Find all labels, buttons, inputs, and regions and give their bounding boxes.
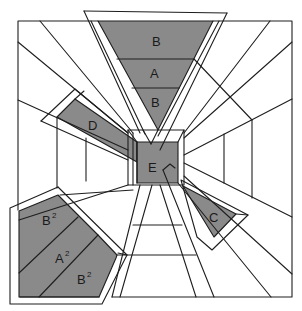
svg-text:2: 2 — [52, 211, 57, 220]
svg-text:2: 2 — [65, 249, 70, 258]
label-b2-upper: B — [42, 213, 51, 228]
label-d: D — [88, 118, 97, 133]
panel-bottom-left — [19, 195, 117, 297]
label-b2-lower: B — [77, 272, 86, 287]
label-top-b2: B — [151, 95, 160, 110]
label-e: E — [148, 160, 157, 175]
label-c: C — [209, 210, 218, 225]
diagram-canvas: B A B D E C B 2 A 2 B 2 — [0, 0, 302, 311]
panel-e — [137, 142, 178, 183]
label-a2: A — [55, 251, 64, 266]
label-top-b1: B — [152, 34, 161, 49]
perspective-diagram: B A B D E C B 2 A 2 B 2 — [0, 0, 302, 311]
top-frame — [84, 11, 227, 13]
svg-text:2: 2 — [87, 270, 92, 279]
label-top-a: A — [150, 66, 159, 81]
